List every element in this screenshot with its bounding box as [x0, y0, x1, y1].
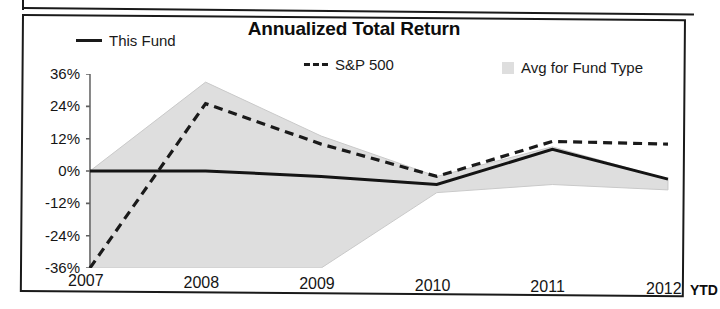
plot-area [86, 74, 672, 268]
series-band-avg-for-fund-type [90, 82, 668, 268]
legend-item-sp500: S&P 500 [304, 56, 394, 73]
y-tick-label: -24% [45, 228, 80, 243]
x-tick-label: 2011 [530, 278, 564, 296]
y-tick-label: -12% [45, 195, 80, 210]
y-tick-label: 0% [58, 163, 80, 178]
y-tick-label: 24% [50, 98, 80, 113]
chart-plot-svg [86, 74, 672, 268]
chart-figure-frame: Annualized Total Return This Fund S&P 50… [20, 14, 686, 297]
x-tick-label: 2010 [415, 277, 451, 295]
gray-square-icon [502, 62, 514, 74]
x-tick-label: 2007 [68, 272, 104, 290]
x-axis-tick-labels: 200720082009201020112012YTD [86, 268, 686, 298]
scan-artifact-top-rule [22, 0, 690, 10]
x-tick-label: 2009 [299, 275, 335, 293]
legend-item-this-fund: This Fund [76, 32, 176, 49]
dashed-line-icon [304, 63, 328, 66]
solid-line-icon [76, 39, 102, 42]
y-tick-label: 12% [50, 131, 80, 146]
x-tick-label: 2008 [184, 274, 220, 292]
legend-label-sp500: S&P 500 [335, 56, 394, 73]
y-axis-tick-labels: 36%24%12%0%-12%-24%-36% [24, 74, 80, 268]
x-tick-label: 2012 [646, 280, 682, 298]
x-axis-ytd-label: YTD [690, 282, 718, 298]
legend-label-this-fund: This Fund [109, 32, 176, 49]
y-tick-label: 36% [50, 66, 80, 81]
